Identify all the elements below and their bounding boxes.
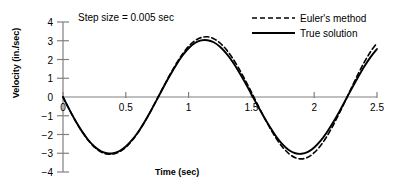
y-axis-tick-label: 4 [47,17,53,28]
legend-item-euler-label: Euler's method [300,13,366,24]
series-line-euler [63,37,377,159]
x-axis-tick-label: 2.5 [370,102,384,113]
legend-swatches [252,18,295,33]
y-axis-tick-label: −4 [42,167,54,178]
y-axis-tick-label: −1 [42,111,54,122]
step-size-annotation: Step size = 0.005 sec [78,12,174,23]
y-axis-tick-label: 1 [47,73,53,84]
x-axis-label: Time (sec) [155,167,199,177]
y-axis-tick-label: 0 [47,92,53,103]
y-axis-tick-label: −3 [42,148,54,159]
series-layer [63,37,377,159]
chart-figure: 00.511.522.5−4−3−2−101234 Step size = 0.… [0,0,402,191]
legend-item-true-label: True solution [300,28,357,39]
x-axis-tick-label: 2 [311,102,317,113]
y-axis-tick-label: 3 [47,36,53,47]
y-axis-tick-label: 2 [47,55,53,66]
x-axis-tick-label: 0.5 [119,102,133,113]
x-axis-tick-label: 1 [186,102,192,113]
y-axis-tick-label: −2 [42,130,54,141]
y-axis-label: Velocity (in./sec) [11,13,21,113]
